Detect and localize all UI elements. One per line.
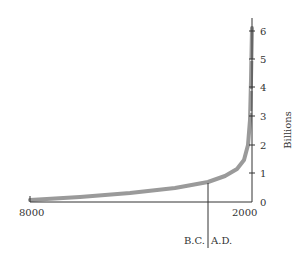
- y-tick-5: 5: [260, 54, 266, 65]
- y-tick-4: 4: [260, 82, 266, 93]
- x-tick-8000: 8000: [19, 207, 44, 218]
- y-tick-0: 0: [260, 197, 266, 208]
- y-tick-6: 6: [260, 26, 266, 37]
- x-tick-2000: 2000: [232, 207, 257, 218]
- era-label-ad: A.D.: [210, 235, 232, 246]
- y-tick-3: 3: [260, 111, 266, 122]
- y-axis-label: Billions: [282, 111, 293, 149]
- y-tick-2: 2: [260, 140, 266, 151]
- population-curve: [30, 28, 252, 200]
- population-chart: 0 1 2 3 4 5 6 Billions 8000 2000 B.C. A.…: [0, 0, 305, 253]
- y-tick-1: 1: [260, 168, 266, 179]
- era-label-bc: B.C.: [184, 235, 205, 246]
